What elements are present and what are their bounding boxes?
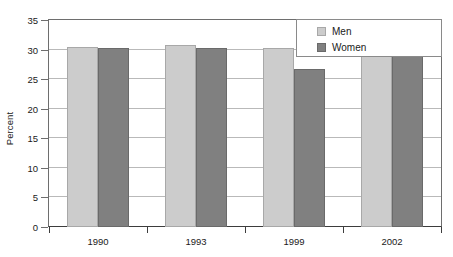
y-tick-mark [41,20,48,21]
bar-men-1993 [165,45,196,227]
x-tick-mark [49,227,50,233]
y-axis-title: Percent [0,0,18,257]
y-tick-mark [41,109,48,110]
y-tick-label: 30 [10,44,38,55]
legend-label-women: Women [332,42,366,53]
y-tick-label: 10 [10,162,38,173]
y-tick-label: 35 [10,15,38,26]
legend-swatch-men-icon [317,27,326,36]
x-tick-label-1993: 1993 [185,236,206,247]
x-tick-mark [343,227,344,233]
y-tick-mark [41,227,48,228]
y-tick-label: 25 [10,74,38,85]
bar-women-1999 [294,69,325,227]
legend-item-men: Men [317,24,441,39]
bar-men-2002 [361,53,392,227]
y-tick-mark [41,138,48,139]
y-tick-label: 5 [10,192,38,203]
bar-men-1990 [67,47,98,227]
x-tick-mark [245,227,246,233]
y-tick-label: 15 [10,133,38,144]
legend-item-women: Women [317,40,441,55]
bar-men-1999 [263,48,294,227]
x-tick-label-1990: 1990 [87,236,108,247]
bar-chart: Percent 05101520253035 1990199319992002 … [0,0,453,257]
y-tick-label: 0 [10,222,38,233]
x-tick-mark [147,227,148,233]
bar-women-1990 [98,48,129,227]
bar-women-1993 [196,48,227,227]
chart-legend: Men Women [296,19,442,57]
x-tick-label-1999: 1999 [283,236,304,247]
legend-swatch-women-icon [317,43,326,52]
x-tick-mark [441,227,442,233]
y-tick-mark [41,50,48,51]
bar-women-2002 [392,56,423,227]
y-tick-mark [41,168,48,169]
x-tick-label-2002: 2002 [381,236,402,247]
y-tick-label: 20 [10,103,38,114]
legend-label-men: Men [332,26,351,37]
y-tick-mark [41,197,48,198]
y-tick-mark [41,79,48,80]
